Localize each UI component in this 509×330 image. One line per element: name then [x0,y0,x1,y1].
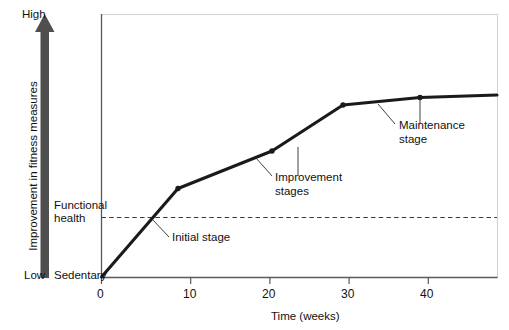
plot-frame [102,15,498,278]
y-axis-title: Improvement in fitness measures [27,51,39,281]
annotation-initial-stage: Initial stage [172,231,230,244]
annotation-improvement-stages-line2: stages [275,185,309,198]
x-tick-label-20: 20 [262,288,275,301]
functional-health-label-line1: Functional [54,199,107,212]
annotation-maintenance-stage-line2: stage [399,133,427,146]
x-tick-label-40: 40 [420,288,433,301]
annotation-maintenance-stage-line1: Maintenance [399,119,465,132]
x-axis-title: Time (weeks) [271,310,340,323]
x-tick-label-0: 0 [97,288,104,301]
functional-health-label-line2: health [54,212,85,225]
x-axis-ticks [102,278,429,285]
x-tick-label-10: 10 [183,288,196,301]
fitness-improvement-chart: High Low Improvement in fitness measures… [0,0,509,330]
annotation-improvement-stages-line1: Improvement [275,171,342,184]
sedentary-label: Sedentary [54,269,106,282]
initial-stage-leader-line [152,219,169,237]
x-tick-label-30: 30 [341,288,354,301]
y-axis-high-label: High [22,8,46,21]
